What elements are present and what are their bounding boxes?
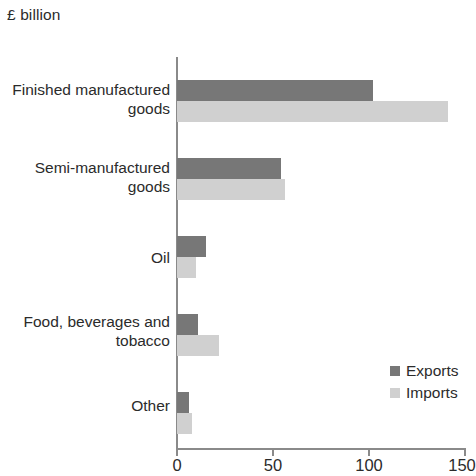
x-axis-tick	[176, 449, 178, 456]
legend-item-imports: Imports	[390, 382, 476, 404]
category-label-line-1: Food, beverages and	[0, 312, 170, 331]
category-label-line-1: Oil	[0, 248, 170, 267]
bar-imports-food-beverages-and-tobacco	[177, 335, 219, 356]
bar-imports-other	[177, 413, 192, 434]
x-axis-tick-label-150: 150	[448, 456, 476, 475]
category-label-line-2: goods	[0, 177, 170, 196]
legend-label-exports: Exports	[406, 362, 459, 380]
category-label-oil: Oil	[0, 248, 170, 267]
category-label-line-1: Other	[0, 396, 170, 415]
legend-swatch-exports-icon	[390, 366, 400, 376]
bar-exports-semi-manufactured-goods	[177, 158, 281, 179]
bar-imports-semi-manufactured-goods	[177, 179, 285, 200]
bar-exports-finished-manufactured-goods	[177, 80, 373, 101]
category-label-line-2: goods	[0, 99, 170, 118]
bar-imports-finished-manufactured-goods	[177, 101, 448, 122]
category-label-line-1: Semi-manufactured	[0, 158, 170, 177]
category-axis-labels: Finished manufactured goods Semi-manufac…	[0, 0, 170, 476]
category-label-line-2: tobacco	[0, 331, 170, 350]
legend-label-imports: Imports	[406, 384, 458, 402]
category-label-semi-manufactured-goods: Semi-manufactured goods	[0, 158, 170, 196]
category-label-finished-manufactured-goods: Finished manufactured goods	[0, 80, 170, 118]
legend-swatch-imports-icon	[390, 388, 400, 398]
bar-exports-oil	[177, 236, 206, 257]
bar-exports-other	[177, 392, 189, 413]
category-label-food-beverages-and-tobacco: Food, beverages and tobacco	[0, 312, 170, 350]
category-label-line-1: Finished manufactured	[0, 80, 170, 99]
bar-chart: £ billion Finished manufactured goods Se…	[0, 0, 476, 476]
bar-imports-oil	[177, 257, 196, 278]
chart-legend: Exports Imports	[390, 360, 476, 404]
bar-exports-food-beverages-and-tobacco	[177, 314, 198, 335]
x-axis-tick	[464, 449, 466, 456]
category-label-other: Other	[0, 396, 170, 415]
x-axis-tick-label-50: 50	[264, 456, 282, 475]
x-axis-tick	[272, 449, 274, 456]
x-axis-line	[176, 448, 466, 450]
x-axis-tick-label-100: 100	[355, 456, 383, 475]
legend-item-exports: Exports	[390, 360, 476, 382]
x-axis-tick-label-0: 0	[172, 456, 181, 475]
x-axis-tick	[368, 449, 370, 456]
